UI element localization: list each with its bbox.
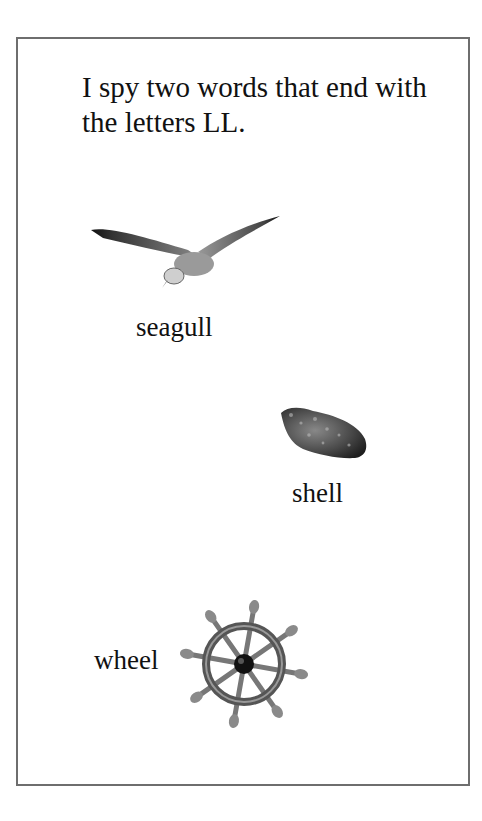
shell-label: shell (292, 478, 343, 509)
wheel-label: wheel (94, 645, 158, 676)
shell-icon (279, 405, 369, 460)
seagull-label: seagull (136, 312, 212, 343)
prompt-text: I spy two words that end with the letter… (82, 70, 442, 140)
ship-wheel-icon (178, 600, 313, 730)
seagull-icon (88, 212, 283, 292)
